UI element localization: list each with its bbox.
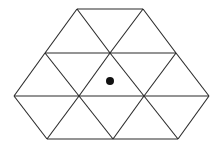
grid-line	[178, 96, 209, 139]
grid-line	[110, 9, 143, 53]
grid-line	[113, 96, 144, 139]
grid-line	[14, 53, 45, 96]
grid-line	[45, 9, 77, 53]
grid-line	[144, 96, 178, 139]
grid-line	[45, 53, 79, 96]
grid-line	[110, 53, 144, 96]
grid-line	[47, 96, 79, 139]
center-dot	[106, 77, 114, 85]
grid-line	[79, 53, 110, 96]
grid-line	[144, 53, 176, 96]
grid-line	[14, 96, 47, 139]
grid-line	[176, 53, 209, 96]
grid-line	[79, 96, 113, 139]
grid-lines	[14, 9, 209, 139]
grid-line	[77, 9, 110, 53]
grid-line	[143, 9, 176, 53]
triangle-grid-diagram	[0, 0, 222, 146]
